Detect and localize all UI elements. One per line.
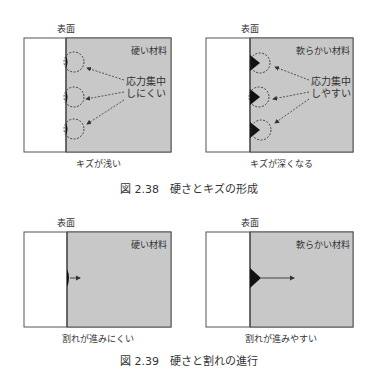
- material-label: 軟らかい材料: [296, 44, 350, 57]
- annotation-label: 応力集中 しやすい: [311, 76, 351, 100]
- panel-bottom-label: キズが浅い: [76, 157, 121, 170]
- panel-bottom-label: キズが深くなる: [250, 157, 313, 170]
- material-label: 軟らかい材料: [296, 238, 350, 251]
- annotation-label: 応力集中 しにくい: [126, 76, 166, 100]
- surface-label: 表面: [241, 216, 259, 229]
- panel-bottom-label: 割れが進みやすい: [245, 332, 317, 345]
- material-label: 硬い材料: [131, 44, 167, 57]
- figure-caption: 図 2.39 硬さと割れの進行: [120, 352, 258, 368]
- surface-label: 表面: [241, 22, 259, 35]
- panel-bottom-label: 割れが進みにくい: [62, 332, 134, 345]
- surface-label: 表面: [57, 22, 75, 35]
- surface-label: 表面: [57, 216, 75, 229]
- figure-caption: 図 2.38 硬さとキズの形成: [120, 180, 258, 196]
- annotation-line2: しにくい: [126, 88, 166, 100]
- material-label: 硬い材料: [131, 238, 167, 251]
- annotation-line1: 応力集中: [311, 76, 351, 88]
- annotation-line2: しやすい: [311, 88, 351, 100]
- annotation-line1: 応力集中: [126, 76, 166, 88]
